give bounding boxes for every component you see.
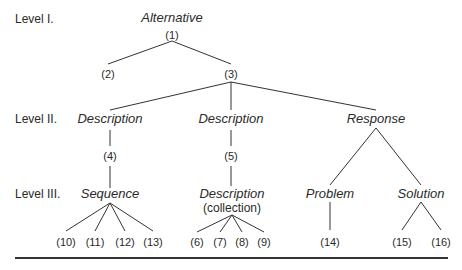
node-7: (7) bbox=[213, 235, 226, 249]
node-problem: Problem bbox=[306, 187, 354, 201]
node-16: (16) bbox=[431, 235, 451, 249]
bottom-rule bbox=[15, 257, 448, 259]
node-8: (8) bbox=[235, 235, 248, 249]
node-response: Response bbox=[347, 112, 406, 126]
level-3-label: Level III. bbox=[15, 187, 60, 201]
node-4: (4) bbox=[103, 149, 116, 163]
level-1-label: Level I. bbox=[15, 12, 54, 26]
tree-edges bbox=[0, 0, 462, 270]
node-alternative: Alternative bbox=[141, 11, 202, 25]
node-sequence: Sequence bbox=[81, 187, 140, 201]
node-14: (14) bbox=[320, 235, 340, 249]
node-solution: Solution bbox=[398, 187, 445, 201]
node-5: (5) bbox=[224, 149, 237, 163]
node-description-collection: Description bbox=[199, 187, 264, 201]
node-11: (11) bbox=[86, 235, 105, 249]
node-9: (9) bbox=[257, 235, 270, 249]
node-description-b: Description bbox=[198, 112, 263, 126]
node-13: (13) bbox=[143, 235, 163, 249]
node-12: (12) bbox=[115, 235, 135, 249]
node-15: (15) bbox=[392, 235, 412, 249]
node-description-a: Description bbox=[77, 112, 142, 126]
node-collection-subtitle: (collection) bbox=[203, 201, 261, 215]
node-2: (2) bbox=[101, 67, 114, 81]
level-2-label: Level II. bbox=[15, 112, 57, 126]
node-1: (1) bbox=[165, 28, 178, 42]
node-10: (10) bbox=[56, 235, 76, 249]
node-3: (3) bbox=[224, 67, 237, 81]
node-6: (6) bbox=[190, 235, 203, 249]
